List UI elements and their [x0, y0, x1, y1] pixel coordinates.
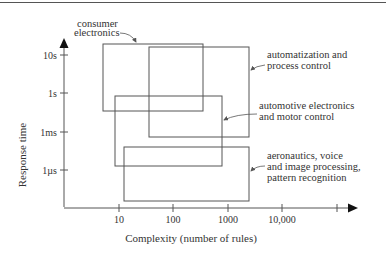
x-tick-1000: 1000 [218, 214, 238, 225]
label-line: and motor control [259, 111, 334, 122]
region-box-aeronautics [124, 147, 249, 201]
application-domains-diagram: 10s 1s 1ms 1µs Response time 10 100 1000… [0, 0, 386, 261]
x-axis-title: Complexity (number of rules) [125, 232, 257, 245]
pointer-arrow-icon [251, 166, 265, 171]
x-axis-arrow-icon [348, 204, 358, 213]
y-tick-1s: 1s [48, 88, 57, 99]
label-consumer-electronics: consumer electronics [74, 18, 136, 42]
y-tick-10s: 10s [43, 50, 57, 61]
label-aeronautics: aeronautics, voice and image processing,… [251, 150, 361, 183]
region-box-automotive [115, 96, 222, 166]
x-tick-10000: 10,000 [268, 214, 296, 225]
pointer-arrow-icon [120, 33, 136, 42]
pointer-arrow-icon [251, 65, 265, 70]
label-line: process control [267, 60, 331, 71]
label-line: electronics [74, 27, 119, 38]
y-axis-arrow-icon [60, 38, 69, 48]
region-box-automatization [149, 47, 249, 137]
pointer-arrow-icon [224, 114, 257, 120]
y-axis: 10s 1s 1ms 1µs Response time [16, 38, 69, 207]
x-tick-10: 10 [114, 214, 124, 225]
x-axis: 10 100 1000 10,000 Complexity (number of… [64, 204, 358, 246]
label-line: automotive electronics [259, 100, 354, 111]
label-line: aeronautics, voice [267, 150, 343, 161]
label-line: pattern recognition [267, 172, 347, 183]
y-tick-1us: 1µs [42, 165, 57, 176]
y-axis-title: Response time [16, 123, 28, 188]
label-line: and image processing, [267, 161, 361, 172]
label-line: automatization and [267, 49, 348, 60]
y-tick-1ms: 1ms [40, 127, 57, 138]
x-tick-100: 100 [166, 214, 181, 225]
label-automotive: automotive electronics and motor control [224, 100, 354, 122]
label-automatization: automatization and process control [251, 49, 348, 71]
region-box-consumer-electronics [103, 44, 203, 111]
